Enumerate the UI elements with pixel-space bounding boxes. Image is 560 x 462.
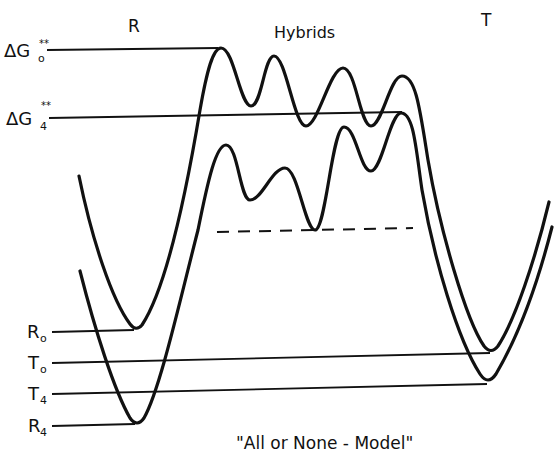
svg-text:o: o — [38, 52, 45, 65]
svg-text:**: ** — [41, 100, 51, 111]
level-r4 — [52, 424, 135, 426]
level-dg4 — [49, 112, 402, 118]
svg-text:R: R — [27, 321, 40, 342]
svg-text:T: T — [27, 383, 40, 404]
label-r0: R o — [27, 321, 47, 345]
label-hybrids: Hybrids — [274, 23, 335, 42]
label-t4: T 4 — [27, 383, 47, 407]
level-r0 — [52, 330, 134, 332]
svg-text:o: o — [40, 332, 47, 345]
svg-text:**: ** — [39, 38, 49, 49]
caption-model: "All or None - Model" — [236, 433, 413, 453]
label-dg0: ΔG o ** — [4, 38, 49, 65]
svg-text:o: o — [40, 363, 47, 376]
label-t0: T o — [27, 352, 47, 376]
svg-text:ΔG: ΔG — [4, 40, 30, 61]
curve-state-0 — [79, 48, 549, 351]
curve-state-4 — [80, 113, 552, 423]
svg-text:R: R — [28, 415, 41, 436]
svg-text:4: 4 — [40, 394, 47, 407]
level-dg0 — [47, 48, 218, 50]
level-t0 — [52, 353, 490, 363]
label-transition: T — [480, 10, 492, 30]
svg-text:4: 4 — [40, 426, 47, 439]
energy-diagram: R Hybrids T ΔG o ** ΔG 4 ** R o T o T 4 … — [0, 0, 560, 462]
label-dg4: ΔG 4 ** — [6, 100, 51, 133]
label-reactant: R — [128, 16, 140, 36]
svg-text:ΔG: ΔG — [6, 108, 32, 129]
svg-text:4: 4 — [40, 120, 47, 133]
label-r4: R 4 — [28, 415, 47, 439]
svg-text:T: T — [27, 352, 40, 373]
